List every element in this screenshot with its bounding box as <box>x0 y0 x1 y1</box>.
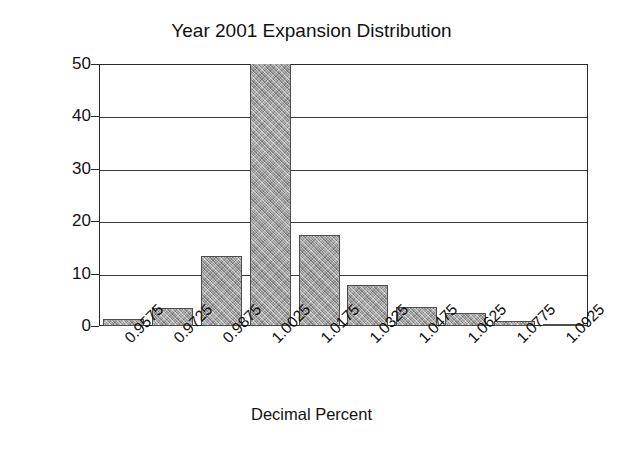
y-tick-mark-30 <box>91 169 99 170</box>
x-axis-title: Decimal Percent <box>0 405 623 424</box>
y-tick-mark-50 <box>91 64 99 65</box>
y-tick-mark-0 <box>91 326 99 327</box>
bar-slot <box>197 64 246 326</box>
x-axis-tick-labels: 0.95750.97250.98751.00251.01751.03251.04… <box>99 326 588 406</box>
bar-slot <box>490 64 539 326</box>
bar-series <box>99 64 588 326</box>
bar[interactable] <box>250 64 291 326</box>
bar-slot <box>392 64 441 326</box>
y-tick-mark-40 <box>91 116 99 117</box>
y-tick-label-20: 20 <box>47 212 91 229</box>
bar-slot <box>99 64 148 326</box>
bar-slot <box>539 64 588 326</box>
y-tick-label-40: 40 <box>47 107 91 124</box>
y-tick-label-30: 30 <box>47 160 91 177</box>
y-tick-label-10: 10 <box>47 265 91 282</box>
bar-slot <box>344 64 393 326</box>
chart-figure: Year 2001 Expansion Distribution % of Su… <box>0 0 623 453</box>
chart-title: Year 2001 Expansion Distribution <box>0 20 623 42</box>
bar-slot <box>295 64 344 326</box>
y-tick-label-50: 50 <box>47 55 91 72</box>
bar-slot <box>441 64 490 326</box>
y-tick-mark-10 <box>91 274 99 275</box>
y-axis-tick-labels: 01020304050 <box>39 64 91 326</box>
bar-slot <box>246 64 295 326</box>
bar-slot <box>148 64 197 326</box>
y-tick-mark-20 <box>91 221 99 222</box>
y-tick-label-0: 0 <box>47 317 91 334</box>
